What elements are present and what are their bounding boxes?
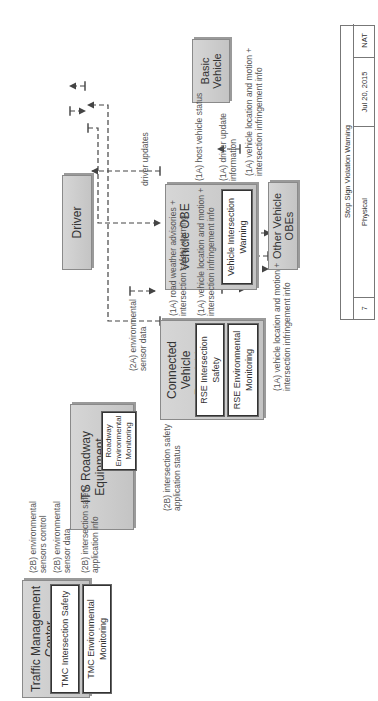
diagram-canvas: Traffic Management Center TMC Intersecti… xyxy=(0,0,378,701)
rse-intersection-safety[interactable]: RSE Intersection Safety xyxy=(196,324,224,416)
flow-driver-updates: driver updates xyxy=(140,132,150,186)
title-block: Stop Sign Violation Warning 7 Physical J… xyxy=(340,25,375,320)
vehicle-intersection-warning[interactable]: Vehicle Intersection Warning xyxy=(222,190,252,284)
driver-box[interactable]: Driver xyxy=(62,175,92,270)
title-block-author: NAT xyxy=(354,24,375,57)
other-obes-title: Other Vehicle OBEs xyxy=(269,183,297,269)
flow-veh-loc-motion-out: (1A) vehicle location and motion + inter… xyxy=(244,48,264,176)
flow-driver-update-info: (1A) driver update information xyxy=(218,113,238,181)
other-obes-box[interactable]: Other Vehicle OBEs xyxy=(268,182,298,270)
flow-env-sensor-data-2a: (2A) environmental sensor data xyxy=(128,299,148,371)
flow-veh-loc-motion-in: (1A) vehicle location and motion + inter… xyxy=(272,263,292,391)
title-block-view: Physical xyxy=(354,127,375,297)
title-block-date: Jul 20, 2015 xyxy=(354,57,375,127)
flow-host-vehicle-status: (1A) host vehicle status xyxy=(194,93,204,181)
flow-veh-loc-motion-rse: (1A) vehicle location and motion + inter… xyxy=(196,188,216,316)
rse-environmental-monitoring[interactable]: RSE Environmental Monitoring xyxy=(228,324,258,416)
flow-env-sensor-data-2b: (2B) environmental sensor data xyxy=(52,501,72,573)
title-block-title: Stop Sign Violation Warning xyxy=(341,24,354,319)
flow-isect-safety-app-status: (2B) intersection safety application sta… xyxy=(162,424,182,511)
roadway-environmental-monitoring[interactable]: Roadway Environmental Monitoring xyxy=(102,412,136,470)
flow-isect-safety-app-info: (2B) intersection safety application inf… xyxy=(80,486,100,573)
flow-env-sensors-control: (2B) environmental sensors control xyxy=(28,501,48,573)
tmc-environmental-monitoring[interactable]: TMC Environmental Monitoring xyxy=(83,585,111,693)
tmc-intersection-safety[interactable]: TMC Intersection Safety xyxy=(51,585,79,693)
title-block-number: 7 xyxy=(354,297,375,319)
driver-title: Driver xyxy=(63,176,91,269)
flow-road-weather-advisories: (1A) road weather advisories + intersect… xyxy=(168,200,188,316)
